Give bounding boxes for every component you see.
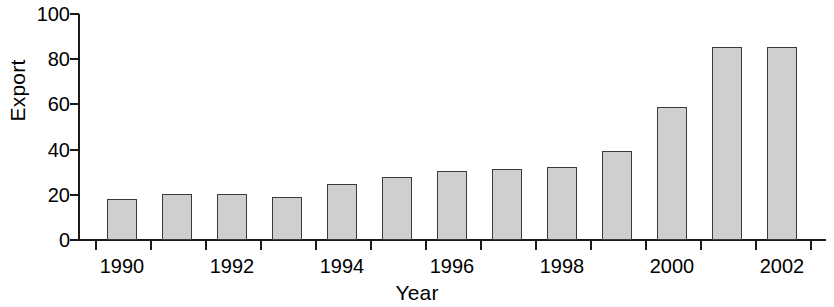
- bar: [547, 167, 578, 240]
- bar: [107, 199, 138, 240]
- y-axis-tick-mark: [70, 149, 79, 151]
- x-axis-tick-mark: [425, 241, 427, 250]
- x-axis-tick-mark: [810, 241, 812, 250]
- y-axis-tick-label: 60: [26, 94, 70, 114]
- y-axis-tick-mark: [70, 58, 79, 60]
- x-axis-tick-mark: [370, 241, 372, 250]
- x-axis-tick-label: 2000: [650, 255, 695, 277]
- bar: [602, 151, 633, 240]
- y-axis-tick-label: 40: [26, 140, 70, 160]
- y-axis-tick-mark: [70, 194, 79, 196]
- x-axis-tick-label: 1992: [210, 255, 255, 277]
- bar: [327, 184, 358, 241]
- x-axis-tick-mark: [755, 241, 757, 250]
- x-axis-tick-mark: [590, 241, 592, 250]
- y-axis-tick-mark: [70, 239, 79, 241]
- bar: [437, 171, 468, 240]
- y-axis-tick-label: 0: [26, 230, 70, 250]
- x-axis-tick-mark: [315, 241, 317, 250]
- x-axis-tick-label: 1994: [320, 255, 365, 277]
- x-axis-tick-mark: [260, 241, 262, 250]
- y-axis-tick-label: 100: [26, 4, 70, 24]
- y-axis-tick-labels: 020406080100: [26, 0, 70, 307]
- y-axis-tick-mark: [70, 13, 79, 15]
- bar: [217, 194, 248, 240]
- bar: [272, 197, 303, 240]
- x-axis-title: Year: [0, 281, 834, 305]
- x-axis-tick-mark: [95, 241, 97, 250]
- y-axis-tick-label: 20: [26, 185, 70, 205]
- bar: [657, 107, 688, 240]
- y-axis-tick-mark: [70, 103, 79, 105]
- bar: [382, 177, 413, 240]
- bar-chart: Export 020406080100 Year 199019921994199…: [0, 0, 834, 307]
- x-axis-title-text: Year: [395, 281, 438, 304]
- x-axis-tick-mark: [480, 241, 482, 250]
- bar: [492, 169, 523, 240]
- x-axis-tick-label: 1990: [100, 255, 145, 277]
- plot-area: [78, 14, 826, 240]
- x-axis-tick-mark: [700, 241, 702, 250]
- bar: [162, 194, 193, 240]
- x-axis-tick-label: 1996: [430, 255, 475, 277]
- bar: [767, 47, 798, 240]
- x-axis-tick-label: 2002: [760, 255, 805, 277]
- bar: [712, 47, 743, 240]
- x-axis-tick-label: 1998: [540, 255, 585, 277]
- x-axis-tick-mark: [150, 241, 152, 250]
- x-axis-tick-mark: [205, 241, 207, 250]
- x-axis-tick-mark: [535, 241, 537, 250]
- y-axis-tick-label: 80: [26, 49, 70, 69]
- x-axis-tick-mark: [645, 241, 647, 250]
